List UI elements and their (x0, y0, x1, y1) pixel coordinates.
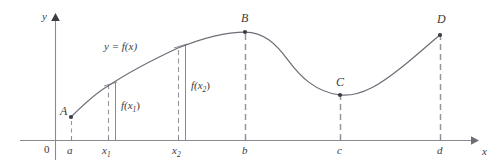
fx2-prefix: f(x (191, 79, 203, 91)
tick-label-x2: x2 (172, 145, 181, 159)
origin-label: 0 (44, 144, 50, 155)
function-graph-figure: y x 0 A B C D a x1 x2 b c d y = f(x) f(x… (0, 0, 504, 168)
fx2-annotation: f(x2) (191, 80, 210, 94)
function-equation-label: y = f(x) (104, 41, 137, 52)
y-axis-arrowhead (51, 13, 60, 21)
point-marker-C (338, 93, 342, 97)
x-axis-arrowhead (471, 136, 479, 145)
point-label-A: A (60, 105, 67, 117)
ordinate-segments-group (104, 44, 187, 140)
tick-label-d: d (437, 145, 443, 156)
tick-label-c-text: c (337, 144, 342, 156)
tick-label-b: b (242, 145, 248, 156)
tick-label-x1-sub: 1 (107, 150, 111, 159)
tick-label-x2-sub: 2 (177, 150, 181, 159)
point-marker-D (438, 33, 442, 37)
x-axis (20, 136, 479, 145)
tick-label-d-text: d (437, 144, 443, 156)
point-label-C: C (336, 76, 344, 88)
point-label-D: D (437, 13, 446, 25)
graph-canvas (0, 0, 504, 168)
point-marker-B (243, 30, 247, 34)
tick-label-b-text: b (242, 144, 248, 156)
y-axis (51, 13, 60, 160)
fx2-suffix: ) (206, 79, 210, 91)
tick-label-x1: x1 (102, 145, 111, 159)
tick-label-c: c (337, 145, 342, 156)
point-label-B: B (241, 12, 248, 24)
fx1-suffix: ) (136, 99, 140, 111)
point-marker-A (69, 115, 73, 119)
x-axis-label: x (482, 146, 487, 157)
fx1-annotation: f(x1) (121, 100, 140, 114)
y-axis-label: y (42, 11, 47, 22)
tick-label-a-text: a (67, 144, 73, 156)
tick-label-a: a (67, 145, 73, 156)
fx1-prefix: f(x (121, 99, 133, 111)
